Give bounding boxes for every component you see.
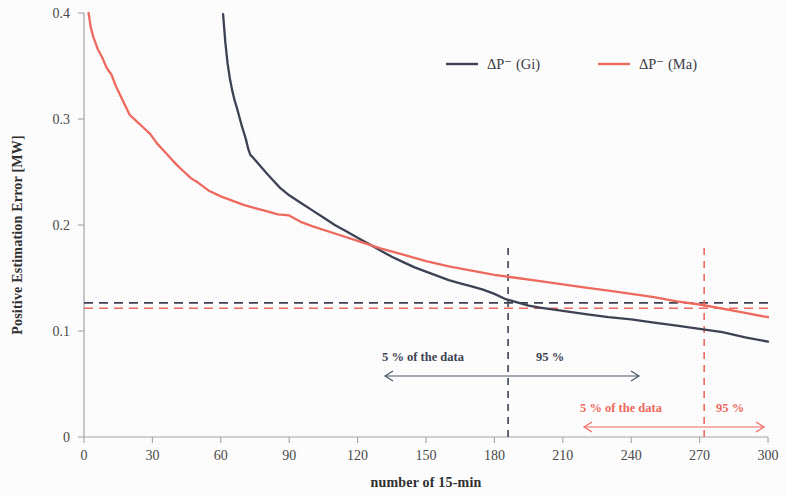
ma-five-percent-label: 5 % of the data — [580, 401, 663, 415]
legend-label-gi: ΔP⁻ (Gi) — [487, 56, 540, 73]
y-tick-label: 0.4 — [53, 6, 71, 21]
y-axis-title: Positive Estimation Error [MW] — [10, 135, 25, 335]
y-tick-label: 0.3 — [53, 112, 71, 127]
legend-entry-ma: ΔP⁻ (Ma) — [598, 56, 697, 73]
axis-lines — [84, 13, 768, 437]
x-tick-label: 150 — [416, 448, 437, 463]
x-axis-title: number of 15-min — [370, 475, 481, 490]
x-tick-label: 270 — [689, 448, 710, 463]
gi-five-percent-label: 5 % of the data — [382, 350, 465, 364]
y-tick-label: 0.1 — [53, 324, 71, 339]
x-tick-label: 90 — [282, 448, 296, 463]
ma-range-arrow — [584, 422, 764, 432]
chart-canvas: 00.10.20.30.4 03060901201501802102402703… — [0, 0, 787, 496]
x-tick-label: 240 — [621, 448, 642, 463]
gi-range-arrow — [385, 371, 639, 381]
x-tick-label: 30 — [145, 448, 159, 463]
y-axis-tick-labels: 00.10.20.30.4 — [53, 6, 71, 445]
x-tick-label: 210 — [552, 448, 573, 463]
gi-ninetyfive-percent-label: 95 % — [536, 350, 564, 364]
y-tick-label: 0.2 — [53, 218, 71, 233]
x-tick-label: 180 — [484, 448, 505, 463]
chart-legend: ΔP⁻ (Gi) ΔP⁻ (Ma) — [446, 56, 697, 73]
y-tick-label: 0 — [63, 430, 70, 445]
legend-entry-gi: ΔP⁻ (Gi) — [446, 56, 540, 73]
x-tick-label: 300 — [758, 448, 779, 463]
legend-label-ma: ΔP⁻ (Ma) — [639, 56, 697, 73]
x-axis-tick-labels: 0306090120150180210240270300 — [81, 448, 779, 463]
x-tick-label: 120 — [347, 448, 368, 463]
ma-ninetyfive-percent-label: 95 % — [716, 401, 744, 415]
annotation-arrows — [385, 371, 764, 432]
x-tick-label: 0 — [81, 448, 88, 463]
chart-figure: 00.10.20.30.4 03060901201501802102402703… — [0, 0, 787, 496]
x-tick-label: 60 — [214, 448, 228, 463]
x-axis-ticks — [84, 437, 768, 443]
y-axis-ticks — [78, 13, 84, 437]
